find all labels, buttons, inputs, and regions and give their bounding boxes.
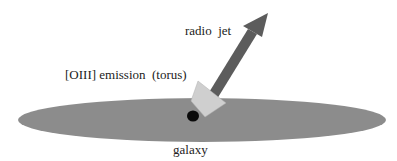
galaxy-nucleus [187, 111, 199, 122]
jet-shaft [208, 29, 257, 99]
galaxy-label: galaxy [173, 143, 208, 156]
oiii-emission-label: [OIII] emission (torus) [65, 68, 187, 81]
radio-jet-label: radio jet [185, 24, 231, 37]
